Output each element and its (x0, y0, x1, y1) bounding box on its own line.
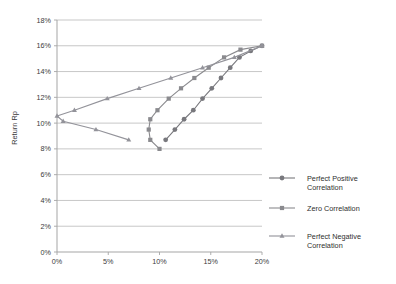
legend-item-label: Perfect Negative (307, 232, 361, 241)
marker-square (222, 55, 226, 59)
marker-square (147, 127, 151, 131)
chart-canvas: 0%2%4%6%8%10%12%14%16%18% 0%5%10%15%20% … (0, 0, 396, 284)
marker-circle (228, 65, 233, 70)
y-axis-title: Return Rp (10, 111, 19, 145)
marker-square (148, 117, 152, 121)
marker-circle (200, 96, 205, 101)
y-axis-tick-label: 6% (41, 170, 52, 179)
marker-circle (209, 86, 214, 91)
y-axis-tick-label: 4% (41, 196, 52, 205)
y-axis-tick-label: 16% (37, 41, 52, 50)
legend-item-label: Perfect Positive (307, 174, 358, 183)
legend-item-label-line2: Correlation (307, 183, 343, 192)
x-axis-tick-label: 20% (255, 257, 270, 266)
marker-square (148, 138, 152, 142)
legend-item-label-line2: Correlation (307, 241, 343, 250)
x-axis-tick-label: 0% (52, 257, 63, 266)
marker-circle (163, 137, 168, 142)
marker-square (280, 206, 284, 210)
marker-square (192, 76, 196, 80)
marker-square (155, 108, 159, 112)
marker-circle (219, 76, 224, 81)
y-axis-tick-label: 0% (41, 248, 52, 257)
y-axis-tick-label: 14% (37, 67, 52, 76)
marker-circle (191, 108, 196, 113)
x-axis-tick-label: 10% (152, 257, 167, 266)
risk-return-correlation-chart: 0%2%4%6%8%10%12%14%16%18% 0%5%10%15%20% … (0, 0, 396, 284)
y-axis-tick-label: 10% (37, 119, 52, 128)
marker-circle (182, 117, 187, 122)
legend-item-label: Zero Correlation (307, 204, 360, 213)
marker-square (238, 48, 242, 52)
y-axis-tick-label: 8% (41, 144, 52, 153)
y-axis-title-text: Return Rp (10, 111, 19, 145)
x-axis-tick-label: 5% (103, 257, 114, 266)
y-axis-tick-label: 12% (37, 93, 52, 102)
marker-circle (280, 176, 285, 181)
marker-square (157, 147, 161, 151)
x-axis-tick-label: 15% (204, 257, 219, 266)
y-axis-tick-label: 2% (41, 222, 52, 231)
marker-square (179, 86, 183, 90)
marker-square (167, 97, 171, 101)
y-axis-tick-label: 18% (37, 16, 52, 25)
marker-circle (172, 127, 177, 132)
